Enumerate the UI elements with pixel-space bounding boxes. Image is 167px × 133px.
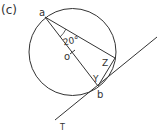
point-label-t: T xyxy=(59,123,65,132)
diameter-ab xyxy=(45,17,98,86)
circle-geometry-diagram: (c) a 20° o Z Y b T xyxy=(0,0,167,133)
angle-arc-a xyxy=(60,29,66,37)
point-label-o: o xyxy=(64,51,70,62)
angle-label-z: Z xyxy=(102,58,108,68)
point-label-b: b xyxy=(97,89,103,100)
angle-label-y: Y xyxy=(92,74,99,84)
angle-label-20: 20° xyxy=(62,34,80,47)
point-label-a: a xyxy=(39,7,45,18)
panel-label: (c) xyxy=(1,3,17,17)
